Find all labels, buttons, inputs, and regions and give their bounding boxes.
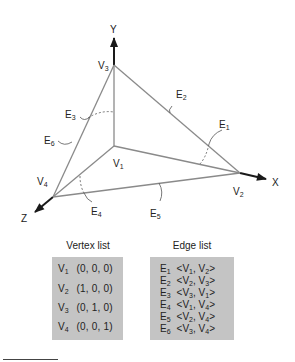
- edge-row: E1<V1, V2>: [160, 263, 215, 275]
- edge-row: E6<V3, V4>: [160, 323, 215, 335]
- edge-label-e5: E5: [150, 208, 161, 220]
- edge-label-e3: E3: [65, 109, 76, 121]
- x-axis-arrow: [240, 173, 266, 179]
- x-axis-label: X: [272, 177, 279, 188]
- vertex-label-v3: V3: [98, 60, 109, 72]
- y-axis-label: Y: [110, 24, 117, 35]
- edge-row: E3<V3, V1>: [160, 287, 215, 299]
- edge-e6: [53, 65, 114, 197]
- vertex-list-table: V1(0, 0, 0) V2(1, 0, 0) V3(0, 1, 0) V4(0…: [52, 257, 123, 340]
- vertex-row: V3(0, 1, 0): [58, 302, 113, 314]
- vertex-labels: V3 V1 V4 V2: [37, 60, 244, 198]
- leader-e6: [58, 141, 72, 144]
- tetrahedron-edges: [53, 65, 240, 197]
- vertex-row: V1(0, 0, 0): [58, 263, 113, 275]
- z-axis-label: Z: [21, 213, 27, 224]
- leader-e1: [209, 130, 222, 144]
- edge-list-table: E1<V1, V2> E2<V2, V3> E3<V3, V1> E4<V1, …: [150, 257, 234, 340]
- arc-e1: [199, 144, 209, 165]
- vertex-label-v1: V1: [113, 158, 124, 170]
- leader-e5: [159, 183, 162, 201]
- vertex-row: V4(0, 0, 1): [58, 321, 113, 333]
- tetrahedron-diagram: Y X Z V3 V1 V4 V2 E2 E1 E3 E6 E4 E5: [0, 0, 295, 232]
- edge-row: E4<V1, V4>: [160, 299, 215, 311]
- edge-e4: [53, 146, 114, 197]
- edge-row: E5<V2, V4>: [160, 311, 215, 323]
- leader-e4: [84, 193, 92, 202]
- vertex-label-v2: V2: [233, 186, 244, 198]
- arc-e4: [80, 176, 84, 193]
- z-axis-arrow: [35, 197, 53, 212]
- edge-row: E2<V2, V3>: [160, 275, 215, 287]
- vertex-row: V2(1, 0, 0): [58, 283, 113, 295]
- edge-labels: E2 E1 E3 E6 E4 E5: [44, 89, 230, 220]
- leader-e2: [169, 106, 172, 113]
- callouts: [58, 106, 222, 202]
- edge-list-header: Edge list: [150, 240, 234, 251]
- edge-label-e6: E6: [44, 135, 55, 147]
- edge-label-e2: E2: [176, 89, 187, 101]
- footnote-rule: [3, 359, 58, 360]
- edge-label-e1: E1: [219, 119, 230, 131]
- edge-e1: [114, 146, 240, 173]
- vertex-list-header: Vertex list: [52, 240, 124, 251]
- edge-label-e4: E4: [91, 206, 102, 218]
- vertex-label-v4: V4: [37, 176, 48, 188]
